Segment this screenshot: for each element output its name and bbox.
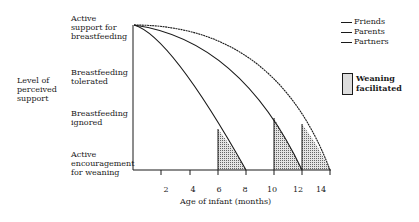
line-swatch-icon [341, 22, 352, 23]
legend-label: Weaning [356, 73, 402, 83]
line-swatch-icon [341, 32, 352, 33]
legend-parents: Parents [341, 27, 385, 36]
legend-friends: Friends [341, 17, 385, 26]
tick-label: 2 [163, 185, 168, 194]
weaning-region-friends [218, 129, 246, 170]
line-swatch-icon [341, 42, 352, 43]
tick-label: 10 [267, 185, 277, 194]
x-ticks [161, 170, 330, 175]
legend-label: Parents [354, 27, 385, 36]
tick-label: 12 [293, 185, 303, 194]
tick-label: 8 [242, 185, 247, 194]
legend-weaning-facilitated: Weaning facilitated [356, 73, 402, 93]
legend-label: facilitated [356, 83, 402, 93]
legend-partners: Partners [341, 37, 389, 46]
weaning-region-partners [302, 124, 330, 170]
legend-label: Friends [354, 17, 385, 26]
shaded-swatch-icon [342, 73, 353, 95]
tick-label: 14 [316, 185, 326, 194]
tick-label: 4 [190, 185, 195, 194]
x-axis-title: Age of infant (months) [180, 197, 271, 206]
tick-label: 6 [216, 185, 221, 194]
legend-label: Partners [354, 37, 389, 46]
